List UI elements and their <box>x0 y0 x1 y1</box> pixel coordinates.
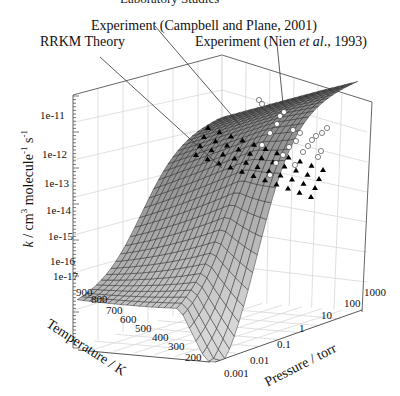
z-axis-title: k / cm3 molecule-1 s-1 <box>19 99 37 279</box>
z-tick-1e-15: 1e-15 <box>48 230 73 242</box>
annotation-nien-text: Experiment (Nien <box>195 34 299 49</box>
z-tick-1e-14: 1e-14 <box>46 204 71 216</box>
p-tick-0.001: 0.001 <box>224 367 249 379</box>
z-axis-s: s <box>21 138 36 147</box>
p-tick-1000: 1000 <box>364 286 386 298</box>
z-tick-1e-11: 1e-11 <box>40 109 65 121</box>
p-tick-0.1: 0.1 <box>277 338 291 350</box>
t-tick-200: 200 <box>185 351 202 363</box>
t-tick-300: 300 <box>168 340 185 352</box>
annotation-campbell: Experiment (Campbell and Plane, 2001) <box>91 18 317 34</box>
z-tick-1e-12: 1e-12 <box>42 148 67 160</box>
annotation-rrkm: RRKM Theory <box>40 34 125 50</box>
z-tick-1e-13: 1e-13 <box>44 177 69 189</box>
p-tick-1: 1 <box>299 322 305 334</box>
p-tick-0.01: 0.01 <box>250 354 269 366</box>
z-axis-sup-m1: -1 <box>19 147 29 155</box>
z-axis-unit-cm: / cm <box>21 213 36 241</box>
p-tick-10: 10 <box>321 309 332 321</box>
clipped-caption: Laboratory Studies <box>120 0 219 7</box>
z-tick-1e-17: 1e-17 <box>53 270 78 282</box>
t-tick-400: 400 <box>152 331 169 343</box>
annotation-nien-year: ., 1993) <box>324 34 367 49</box>
annotation-nien-italic: et al <box>299 34 324 49</box>
z-tick-1e-16: 1e-16 <box>50 255 75 267</box>
z-axis-molecule: molecule <box>21 154 36 209</box>
z-axis-k: k <box>21 241 36 247</box>
p-tick-100: 100 <box>344 297 361 309</box>
z-axis-sup-3: 3 <box>19 209 29 214</box>
t-tick-500: 500 <box>135 322 152 334</box>
z-axis-sup-m1b: -1 <box>19 130 29 138</box>
annotation-nien: Experiment (Nien et al., 1993) <box>195 34 367 50</box>
